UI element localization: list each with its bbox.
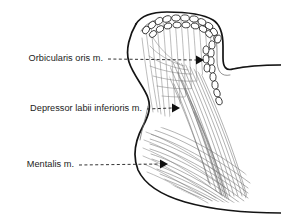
label-mentalis: Mentalis m. bbox=[27, 159, 74, 169]
anatomy-figure: Orbicularis oris m. Depressor labii infe… bbox=[0, 0, 281, 224]
label-depressor-labii-inferioris: Depressor labii inferioris m. bbox=[30, 103, 142, 113]
label-orbicularis-oris: Orbicularis oris m. bbox=[29, 53, 103, 63]
anatomy-illustration: Orbicularis oris m. Depressor labii infe… bbox=[0, 0, 281, 224]
